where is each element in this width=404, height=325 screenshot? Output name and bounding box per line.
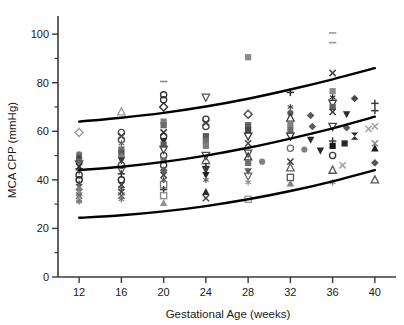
x-tick-label: 24 bbox=[200, 286, 212, 298]
y-tick-label: 0 bbox=[43, 271, 49, 283]
data-point-square-filled bbox=[287, 121, 293, 127]
chart-canvas: 020406080100 1216202428323640 MCA CPP (m… bbox=[0, 0, 404, 325]
data-point-circle-filled bbox=[301, 146, 307, 152]
data-point-square-filled bbox=[330, 88, 336, 94]
x-tick-label: 40 bbox=[369, 286, 381, 298]
x-tick-label: 28 bbox=[242, 286, 254, 298]
x-tick-label: 20 bbox=[158, 286, 170, 298]
y-tick-label: 20 bbox=[37, 222, 49, 234]
data-point-square-filled bbox=[161, 122, 167, 128]
y-axis-title: MCA CPP (mmHg) bbox=[6, 102, 18, 198]
x-tick-label: 16 bbox=[115, 286, 127, 298]
data-point-circle-filled bbox=[259, 159, 265, 165]
data-point-square-filled bbox=[342, 140, 348, 146]
data-point-square-filled bbox=[287, 127, 293, 133]
data-point-square-filled bbox=[203, 143, 209, 149]
x-tick-label: 36 bbox=[327, 286, 339, 298]
data-point-square-filled bbox=[330, 143, 336, 149]
y-tick-label: 80 bbox=[37, 77, 49, 89]
y-tick-label: 100 bbox=[31, 28, 49, 40]
x-axis-title: Gestational Age (weeks) bbox=[166, 308, 291, 320]
y-tick-label: 40 bbox=[37, 174, 49, 186]
y-tick-label: 60 bbox=[37, 125, 49, 137]
data-point-square-filled bbox=[245, 127, 251, 133]
data-point-square-filled bbox=[245, 160, 251, 166]
x-tick-label: 12 bbox=[73, 286, 85, 298]
data-point-square-filled bbox=[245, 54, 251, 60]
scatter-chart: 020406080100 1216202428323640 MCA CPP (m… bbox=[0, 0, 404, 325]
x-tick-label: 32 bbox=[284, 286, 296, 298]
